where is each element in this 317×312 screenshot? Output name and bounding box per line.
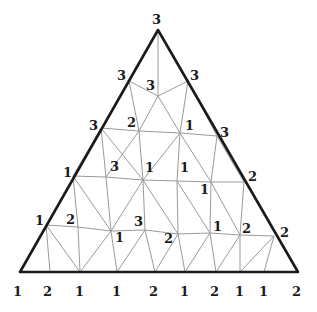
vertex-label-p4e: 1 [213, 219, 222, 234]
mesh-edge [139, 96, 158, 131]
mesh-edge [106, 177, 111, 231]
mesh-edge [143, 180, 177, 181]
vertex-label-b2: 1 [75, 284, 84, 299]
mesh-edge [180, 133, 217, 136]
vertex-label-l3: 1 [63, 165, 72, 180]
mesh-edge [73, 176, 111, 231]
vertex-label-b9: 2 [292, 284, 301, 299]
vertex-label-b1: 2 [43, 284, 52, 299]
mesh-edge [46, 225, 50, 272]
mesh-edge [78, 227, 80, 272]
mesh-edge [178, 233, 210, 234]
mesh-edge [143, 180, 145, 230]
vertex-label-p3a: 3 [110, 159, 119, 174]
vertex-label-b5: 1 [180, 284, 189, 299]
vertex-label-top: 3 [152, 12, 161, 27]
vertex-label-p3d: 1 [200, 182, 209, 197]
mesh-edge [73, 176, 106, 177]
vertex-label-p4c: 3 [134, 214, 143, 229]
mesh-edge [80, 231, 111, 272]
mesh-edge [210, 233, 216, 272]
mesh-edge [143, 180, 178, 234]
vertex-label-l4: 1 [35, 213, 44, 228]
mesh-edge [210, 182, 211, 233]
mesh-edges [46, 30, 274, 272]
vertex-label-p4a: 2 [66, 212, 75, 227]
vertex-label-r4: 2 [280, 225, 289, 240]
mesh-edge [217, 136, 244, 182]
mesh-edge [139, 131, 143, 180]
mesh-edge [177, 181, 178, 234]
vertex-label-p3c: 1 [180, 160, 189, 175]
mesh-edge [211, 136, 217, 182]
mesh-edge [216, 235, 240, 272]
vertex-labels: 33333213131112121321221211212112 [13, 12, 301, 299]
vertex-label-b4: 2 [149, 284, 158, 299]
vertex-label-c1: 3 [146, 78, 155, 93]
mesh-edge [178, 234, 185, 272]
vertex-label-r1: 3 [190, 68, 199, 83]
mesh-edge [158, 96, 180, 133]
vertex-label-b6: 2 [210, 284, 219, 299]
vertex-label-r3: 2 [248, 169, 257, 184]
vertex-label-b0: 1 [13, 284, 22, 299]
vertex-label-b8: 1 [259, 284, 268, 299]
vertex-label-b7: 1 [235, 284, 244, 299]
mesh-edge [101, 128, 106, 177]
mesh-edge [145, 230, 155, 272]
vertex-label-p2b: 1 [185, 118, 194, 133]
vertex-label-r2: 3 [220, 125, 229, 140]
mesh-edge [46, 225, 80, 272]
vertex-label-l2: 3 [89, 118, 98, 133]
vertex-label-p4f: 2 [242, 221, 251, 236]
mesh-edge [78, 227, 111, 231]
vertex-label-p2a: 2 [127, 115, 136, 130]
vertex-label-l1: 3 [117, 68, 126, 83]
vertex-label-p3b: 1 [145, 160, 154, 175]
vertex-label-b3: 1 [112, 284, 121, 299]
mesh-edge [139, 131, 180, 133]
mesh-edge [145, 230, 178, 234]
vertex-label-p4b: 1 [115, 230, 124, 245]
sperner-triangulation-diagram: 33333213131112121321221211212112 [0, 0, 317, 312]
mesh-edge [158, 81, 188, 96]
triangulation-canvas: 33333213131112121321221211212112 [0, 0, 317, 312]
vertex-label-p4d: 2 [164, 231, 173, 246]
mesh-edge [185, 233, 210, 272]
mesh-edge [106, 177, 143, 180]
